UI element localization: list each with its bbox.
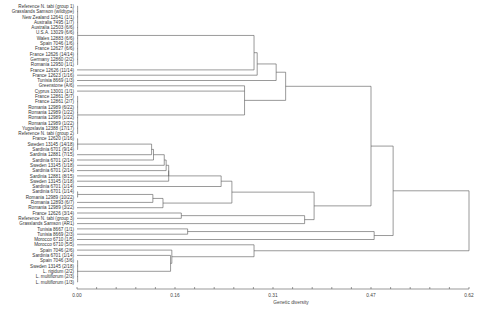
- leaf-label: Sardinia 6701 (1/14): [32, 189, 74, 194]
- leaf-label: Romania 12989 (1/22): [28, 121, 74, 126]
- leaf-label: France 12627 (6/6): [35, 46, 75, 51]
- leaf-label: Tunisia 8669 (1/3): [37, 78, 74, 83]
- leaf-label: Romania 12989 (10/22): [26, 195, 75, 200]
- x-tick-label: 0.47: [366, 293, 376, 298]
- leaf-label: Morocco 6710 (5/5): [34, 242, 74, 247]
- leaf-label: L. multiflorum (2/3): [36, 274, 75, 279]
- leaf-label: Sweden 13145 (2/18): [30, 264, 74, 269]
- leaf-label: Romania 12989 (6/22): [28, 105, 74, 110]
- leaf-label: Sweden 13145 (1/18): [30, 163, 74, 168]
- leaf-label: France 12623 (1/16): [32, 73, 74, 78]
- leaf-label: Wales 12883 (6/6): [37, 36, 75, 41]
- leaf-label: Tunisia 8669 (2/3): [37, 232, 74, 237]
- leaf-label: Germany 12860 (2/2): [30, 57, 74, 62]
- leaf-label: Sardinia 12881 (8/15): [30, 174, 75, 179]
- leaf-label: L. multiflorum (1/3): [36, 280, 75, 285]
- leaf-label: Sardinia 6701 (1/14): [32, 184, 74, 189]
- leaf-label: France 12861 (5/7): [35, 94, 75, 99]
- leaf-label: Sardinia 6701 (2/14): [32, 168, 74, 173]
- x-tick-label: 0.62: [464, 293, 474, 298]
- leaf-label: Tunisia 8667 (1/1): [37, 227, 74, 232]
- leaf-label: Reference N. tabi (group 2): [18, 131, 74, 136]
- leaf-label: Yugoslavia 12388 (17/17): [22, 126, 75, 131]
- leaf-label: Grasslands Samson (AR1): [19, 221, 74, 226]
- x-axis-title: Genetic diversity: [273, 300, 309, 305]
- leaf-label: France 12626 (14/14): [30, 52, 75, 57]
- leaf-label: Sardinia 6701 (2/14): [32, 158, 74, 163]
- leaf-label: Romania 12950 (1/1): [31, 62, 75, 67]
- leaf-label: Spain 7046 (3/6): [40, 258, 74, 263]
- leaf-label: Reference N. tabi (group 3): [18, 216, 74, 221]
- leaf-labels: Reference N. tabi (group 1)Grasslands Sa…: [12, 4, 75, 285]
- leaf-label: U.S.A. 13029 (6/6): [36, 30, 75, 35]
- leaf-label: France 12626 (11/14): [30, 68, 74, 73]
- leaf-label: France 12620 (1/16): [32, 136, 74, 141]
- leaf-label: Romania 12893 (6/7): [31, 200, 75, 205]
- tree-branches: [77, 6, 469, 282]
- leaf-label: Sardinia 6701 (9/14): [32, 147, 74, 152]
- leaf-label: Sweden 13145 (1/18): [30, 179, 74, 184]
- x-tick-label: 0.00: [72, 293, 82, 298]
- leaf-label: Sweden 13145 (14/18): [28, 142, 75, 147]
- leaf-label: Australia 12503 (6/6): [31, 25, 74, 30]
- leaf-label: Grasslands Samson (wildtype): [12, 9, 75, 14]
- dendrogram-figure: Reference N. tabi (group 1)Grasslands Sa…: [0, 0, 487, 314]
- leaf-label: Spain 7046 (2/6): [40, 248, 74, 253]
- leaf-label: Romania 12989 (3/22): [28, 205, 74, 210]
- leaf-label: France 12626 (3/14): [32, 211, 74, 216]
- dendrogram-svg: Reference N. tabi (group 1)Grasslands Sa…: [0, 0, 487, 314]
- leaf-label: Morocco 6710 (1/5): [34, 237, 74, 242]
- leaf-label: Sardinia 12881 (7/15): [30, 152, 75, 157]
- x-tick-label: 0.31: [268, 293, 278, 298]
- leaf-label: Spain 7046 (1/6): [40, 41, 74, 46]
- x-axis: 0.000.160.310.470.62Genetic diversity: [72, 287, 474, 305]
- leaf-label: Sardinia 6701 (1/14): [32, 253, 74, 258]
- leaf-label: Greenstone (A/6): [39, 83, 75, 88]
- leaf-label: Romania 12989 (1/22): [28, 115, 74, 120]
- leaf-label: Cyprus 13001 (1/1): [35, 89, 75, 94]
- leaf-label: New Zealand 12641 (1/1): [22, 15, 74, 20]
- leaf-label: Reference N. tabi (group 1): [18, 4, 74, 9]
- leaf-label: Romania 12989 (1/22): [28, 110, 74, 115]
- leaf-label: France 12861 (2/7): [35, 99, 75, 104]
- x-tick-label: 0.16: [170, 293, 180, 298]
- leaf-label: L. rigidum (2/2): [43, 269, 74, 274]
- leaf-label: Australia 7495 (1/7): [34, 20, 75, 25]
